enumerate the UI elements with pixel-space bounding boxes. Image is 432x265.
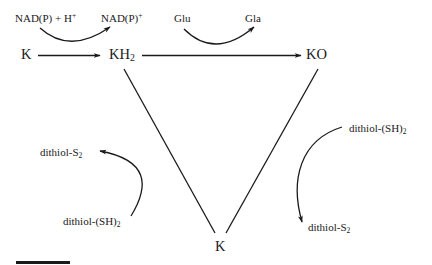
node-sub: 2 <box>130 52 135 63</box>
node-text: KO <box>306 46 327 62</box>
scale-bar <box>16 261 70 264</box>
label-nadp: NAD(P)+ <box>101 13 143 24</box>
arrow-left-dithiol <box>100 151 142 216</box>
node-text: K <box>21 46 31 62</box>
label-text: NAD(P) <box>101 12 138 24</box>
line-kh2-to-k <box>124 69 215 233</box>
node-kh2: KH2 <box>109 47 135 62</box>
label-nadph-h: NAD(P) + H+ <box>15 13 76 24</box>
label-sub: 2 <box>117 220 121 229</box>
label-text: Gla <box>245 12 261 24</box>
label-gla: Gla <box>245 13 261 24</box>
node-k-left: K <box>21 47 31 62</box>
node-k-bottom: K <box>215 239 225 254</box>
label-glu: Glu <box>174 13 191 24</box>
label-left-dithiol-s2: dithiol-S2 <box>40 147 82 158</box>
line-ko-to-k <box>226 69 318 233</box>
arrow-right-dithiol <box>297 127 342 222</box>
label-text: NAD(P) + H <box>15 12 72 24</box>
label-sub: 2 <box>79 151 83 160</box>
label-text: dithiol-S <box>308 221 347 233</box>
label-text: dithiol-(SH) <box>63 215 117 227</box>
label-sub: 2 <box>347 226 351 235</box>
label-left-dithiol-sh2: dithiol-(SH)2 <box>63 216 121 227</box>
label-text: Glu <box>174 12 191 24</box>
vitamin-k-cycle-diagram: NAD(P) + H+ NAD(P)+ Glu Gla K KH2 KO K d… <box>0 0 432 265</box>
label-text: dithiol-S <box>40 146 79 158</box>
node-ko: KO <box>306 47 327 62</box>
node-text: K <box>215 238 225 254</box>
label-right-dithiol-s2: dithiol-S2 <box>308 222 350 233</box>
label-text: dithiol-(SH) <box>349 122 403 134</box>
label-sup: + <box>138 11 142 20</box>
node-text: KH <box>109 46 130 62</box>
arrow-glu-to-gla <box>184 27 254 44</box>
label-right-dithiol-sh2: dithiol-(SH)2 <box>349 123 407 134</box>
arrow-nadph-to-nadp <box>40 27 110 41</box>
label-sup: + <box>72 11 76 20</box>
label-sub: 2 <box>403 127 407 136</box>
